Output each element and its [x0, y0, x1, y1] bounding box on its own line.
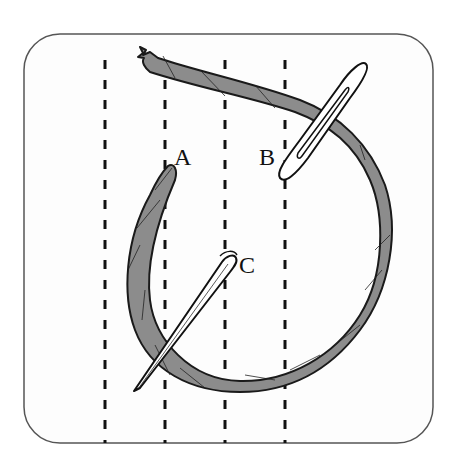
label-c: C: [239, 252, 255, 278]
label-a: A: [174, 144, 192, 170]
diagram-svg: A B C: [0, 0, 455, 457]
label-b: B: [259, 144, 275, 170]
stitch-diagram: A B C: [0, 0, 455, 457]
